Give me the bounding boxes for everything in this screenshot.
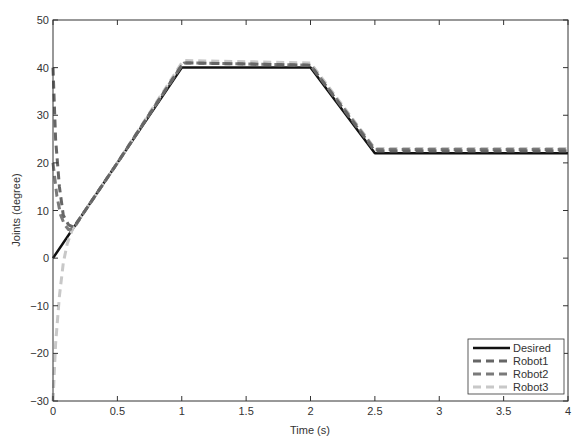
x-tick-label: 2.5 [367,405,382,417]
x-tick-label: 0 [50,405,56,417]
series-line-robot2 [53,63,568,230]
y-tick-label: 50 [37,14,49,26]
legend-label-desired: Desired [513,342,551,354]
y-tick-label: −30 [30,395,49,407]
y-tick-label: 20 [37,157,49,169]
legend-label-robot2: Robot2 [513,368,548,380]
x-tick-label: 4 [565,405,571,417]
x-tick-label: 1.5 [238,405,253,417]
x-tick-label: 3 [436,405,442,417]
x-axis-label: Time (s) [290,424,330,436]
y-tick-label: −20 [30,347,49,359]
x-tick-label: 2 [307,405,313,417]
x-tick-label: 1 [179,405,185,417]
x-tick-label: 0.5 [110,405,125,417]
series-line-robot1 [53,63,568,227]
y-tick-label: 30 [37,109,49,121]
legend-label-robot1: Robot1 [513,355,548,367]
y-axis-label: Joints (degree) [10,173,22,246]
legend-label-robot3: Robot3 [513,381,548,393]
line-chart: 00.511.522.533.54 −30−20−1001020304050 T… [0,0,584,439]
legend: DesiredRobot1Robot2Robot3 [468,339,564,394]
y-tick-label: 10 [37,205,49,217]
y-tick-label: 40 [37,62,49,74]
y-tick-label: 0 [43,252,49,264]
y-tick-label: −10 [30,300,49,312]
series-line-desired [53,68,568,259]
x-tick-label: 3.5 [496,405,511,417]
